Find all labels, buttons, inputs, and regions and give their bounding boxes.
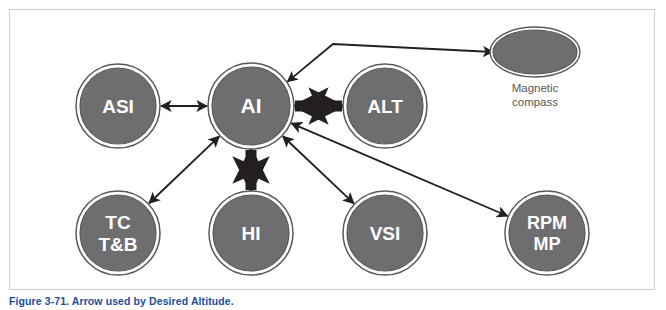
figure-caption-number: Figure 3-71. <box>9 295 69 307</box>
figure-root: Magneticcompass ASIAIALTTCT&BHIVSIRPMMP … <box>0 0 666 310</box>
figure-caption-text: Arrow used by Desired Altitude. <box>72 295 234 307</box>
figure-panel <box>9 9 655 290</box>
figure-caption: Figure 3-71. Arrow used by Desired Altit… <box>9 295 649 307</box>
